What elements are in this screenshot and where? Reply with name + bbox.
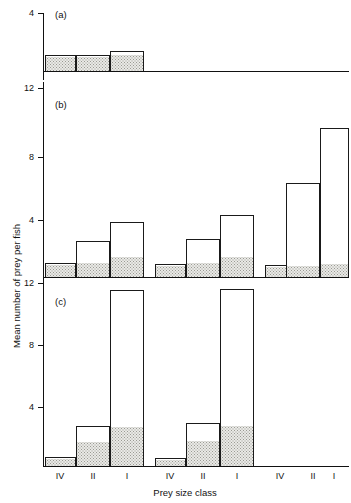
panel-b-tick-4 (38, 220, 43, 221)
bar-c-g2-IV-white (155, 458, 186, 460)
panel-b-ticklabel-4: 4 (14, 216, 34, 225)
panel-c-tick-4 (38, 407, 43, 408)
bar-b-g2-II-shaded (186, 262, 220, 277)
panel-a-y-axis (43, 13, 44, 80)
bar-a-g1-II-shaded (76, 56, 110, 71)
panel-c-baseline (43, 466, 349, 467)
x-tick-label-4: IV (158, 472, 182, 481)
panel-c-ticklabel-4: 4 (14, 403, 34, 412)
bar-a-g1-I-white (110, 51, 144, 55)
x-tick-label-9: I (322, 472, 346, 481)
x-tick-label-7: IV (268, 472, 292, 481)
bar-b-g2-IV-white (155, 264, 186, 266)
panel-b-baseline (43, 277, 349, 278)
bar-b-g1-II-shaded (76, 262, 110, 277)
bar-c-g2-II-white (186, 423, 220, 441)
x-tick-label-2: II (81, 472, 105, 481)
bar-a-g1-I-shaded (110, 54, 144, 71)
panel-b-label: (b) (55, 100, 67, 110)
bar-a-g1-IV-white (45, 55, 76, 57)
bar-b-g3-I-shaded (320, 263, 349, 277)
bar-b-g2-I-shaded (220, 256, 254, 277)
bar-b-g2-II-white (186, 239, 220, 263)
bar-b-g2-I-white (220, 215, 254, 257)
bar-b-g1-II-white (76, 241, 110, 263)
bar-b-g3-II-shaded (265, 265, 267, 266)
x-tick-label-1: IV (48, 472, 72, 481)
bar-c-g2-II-shaded (186, 440, 220, 466)
panel-c-y-axis (43, 277, 44, 467)
panel-c-label: (c) (55, 297, 66, 307)
panel-b-ticklabel-12: 12 (14, 84, 34, 93)
x-axis-title: Prey size class (115, 488, 255, 498)
bar-b-g1-IV-shaded (45, 264, 76, 277)
panel-a-tick-4 (38, 13, 43, 14)
bar-c-g1-I-white (110, 290, 144, 427)
x-tick-label-3: I (115, 472, 139, 481)
panel-c-ticklabel-8: 8 (14, 341, 34, 350)
bar-b-g3-I-white (320, 128, 349, 264)
bar-b-g3-IIb-white (286, 183, 320, 266)
bar-b-g3-II2-shaded (281, 265, 283, 266)
bar-b-g1-IV-white (45, 263, 76, 265)
bar-c-g1-II-white (76, 426, 110, 442)
bar-c-g1-IV-white (45, 457, 76, 459)
bar-c-g1-IV-shaded (45, 458, 76, 466)
bar-a-g1-IV-shaded (45, 56, 76, 71)
x-tick-label-5: II (191, 472, 215, 481)
x-tick-label-6: I (225, 472, 249, 481)
bar-a-g1-II-white (76, 55, 110, 57)
bar-c-g1-I-shaded (110, 426, 144, 466)
panel-c-ticklabel-12: 12 (14, 279, 34, 288)
panel-a-label: (a) (55, 10, 67, 20)
panel-c-tick-8 (38, 345, 43, 346)
bar-c-g2-IV-shaded (155, 459, 186, 466)
bar-c-g1-II-shaded (76, 441, 110, 466)
panel-c-tick-12 (38, 283, 43, 284)
bar-c-g2-I-shaded (220, 425, 254, 466)
bar-b-g1-I-white (110, 222, 144, 257)
figure-canvas: Mean number of prey per fish (a) 4 (b) 1… (0, 0, 351, 503)
bar-b-g1-I-shaded (110, 256, 144, 277)
bar-b-g3-IIb-shaded (286, 265, 320, 277)
panel-b-y-axis (43, 82, 44, 278)
bar-b-g2-IV-shaded (155, 265, 186, 277)
panel-b-tick-8 (38, 157, 43, 158)
panel-a-ticklabel-4: 4 (14, 9, 34, 18)
panel-b-tick-12 (38, 88, 43, 89)
panel-a-baseline (43, 71, 349, 72)
panel-b-ticklabel-8: 8 (14, 153, 34, 162)
bar-c-g2-I-white (220, 289, 254, 426)
